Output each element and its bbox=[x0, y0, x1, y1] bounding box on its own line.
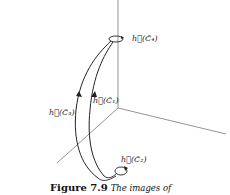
curve-bottom bbox=[98, 173, 117, 180]
arrow-c2 bbox=[124, 166, 128, 171]
caption-text: The images of bbox=[111, 183, 172, 193]
loop-c4 bbox=[109, 36, 123, 42]
caption-number: Figure 7.9 bbox=[50, 182, 108, 193]
label-c4: h⃗(C̃₄) bbox=[132, 35, 158, 43]
label-c2: h⃗(C̃₂) bbox=[121, 156, 147, 164]
arrow-c3 bbox=[76, 91, 82, 97]
right-axis bbox=[118, 108, 226, 134]
label-c1: h⃗(C̃₁) bbox=[93, 97, 119, 105]
label-c3: h⃗(C̃₃) bbox=[49, 109, 75, 117]
figure-caption: Figure 7.9The images of bbox=[50, 182, 171, 193]
figure-7-9: h⃗(C̃₄) h⃗(C̃₃) h⃗(C̃₁) h⃗(C̃₂) Figure 7… bbox=[0, 0, 230, 195]
